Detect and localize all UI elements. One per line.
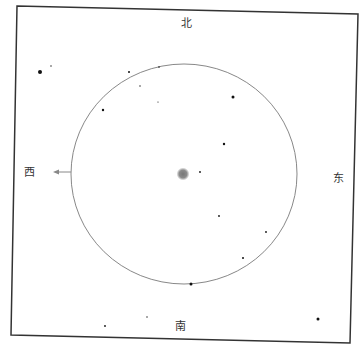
star: [157, 101, 158, 102]
star: [102, 109, 104, 111]
star: [190, 283, 193, 286]
star: [199, 171, 201, 173]
stars-group: [38, 65, 320, 327]
star: [232, 96, 235, 99]
star: [50, 65, 51, 66]
star-chart: [0, 0, 363, 351]
star: [265, 231, 267, 233]
star: [242, 257, 244, 259]
direction-west-label: 西: [24, 167, 35, 178]
star: [317, 318, 320, 321]
direction-south-label: 南: [175, 321, 186, 332]
star: [104, 325, 106, 327]
star: [223, 143, 225, 145]
west-arrow-icon: [53, 170, 71, 175]
direction-east-label: 东: [333, 173, 344, 184]
star: [158, 66, 160, 68]
star: [128, 71, 130, 73]
star: [146, 316, 147, 317]
direction-north-label: 北: [181, 18, 192, 29]
star: [38, 70, 42, 74]
star: [139, 85, 140, 86]
star: [218, 215, 220, 217]
center-object: [177, 168, 190, 181]
